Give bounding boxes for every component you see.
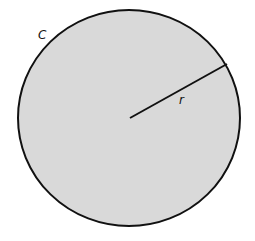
circumference-label: C xyxy=(38,28,47,42)
circle-diagram: C r xyxy=(0,0,255,241)
circle xyxy=(18,10,240,226)
